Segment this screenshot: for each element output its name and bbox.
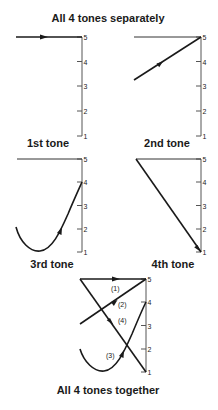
arrow-icon [112, 277, 120, 282]
tick-2: 2 [84, 226, 88, 233]
label-1: (1) [111, 285, 120, 293]
tick-2: 2 [203, 108, 207, 115]
tick-1: 1 [148, 369, 152, 376]
tick-3: 3 [148, 323, 152, 330]
label-3: (3) [106, 352, 115, 360]
tick-4: 4 [203, 179, 207, 186]
label-tone3: 3rd tone [30, 258, 73, 270]
label-2: (2) [118, 301, 127, 309]
tone3-contour [16, 182, 82, 251]
tick-1: 1 [203, 133, 207, 140]
tick-4: 4 [84, 179, 88, 186]
label-tone1: 1st tone [27, 137, 69, 149]
axis-ticks [77, 159, 82, 252]
axis-ticks [196, 37, 201, 136]
tick-1: 1 [84, 133, 88, 140]
tick-3: 3 [203, 203, 207, 210]
panel-tone1: 5 4 3 2 1 1st tone [16, 34, 88, 149]
panel-tone3: 5 4 3 2 1 3rd tone [16, 156, 88, 270]
tick-2: 2 [203, 226, 207, 233]
tone-diagram: All 4 tones separately 5 4 3 2 1 1st ton… [0, 0, 218, 410]
axis-ticks [77, 37, 82, 136]
tick-2: 2 [84, 108, 88, 115]
tick-5: 5 [203, 34, 207, 41]
title-separately: All 4 tones separately [51, 12, 165, 24]
axis-ticks [196, 159, 201, 252]
axis-ticks [141, 279, 146, 372]
tick-5: 5 [84, 156, 88, 163]
arrow-icon [119, 350, 124, 358]
tick-3: 3 [203, 83, 207, 90]
arrow-icon [157, 62, 164, 68]
tick-5: 5 [203, 156, 207, 163]
tick-1: 1 [203, 249, 207, 256]
tick-3: 3 [84, 83, 88, 90]
panel-combined: 5 4 3 2 1 (1) (2) (4) (3) [80, 276, 152, 376]
panel-tone4: 5 4 3 2 1 4th tone [136, 156, 207, 270]
arrow-icon [40, 35, 48, 40]
label-tone2: 2nd tone [144, 137, 190, 149]
tick-1: 1 [84, 249, 88, 256]
tick-4: 4 [84, 59, 88, 66]
tick-5: 5 [84, 34, 88, 41]
label-tone4: 4th tone [152, 258, 195, 270]
label-4: (4) [118, 317, 127, 325]
tick-3: 3 [84, 203, 88, 210]
tick-2: 2 [148, 346, 152, 353]
tick-5: 5 [148, 276, 152, 283]
panel-tone2: 5 4 3 2 1 2nd tone [134, 34, 207, 149]
tick-4: 4 [203, 59, 207, 66]
tone3-contour [80, 302, 146, 371]
title-together: All 4 tones together [57, 384, 160, 396]
tick-4: 4 [148, 299, 152, 306]
arrow-icon [194, 245, 201, 252]
tone4-contour [136, 159, 201, 252]
tone2-contour [134, 37, 201, 80]
